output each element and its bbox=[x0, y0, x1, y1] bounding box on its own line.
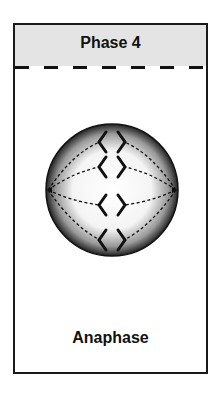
phase-card: Phase 4 bbox=[13, 23, 208, 374]
anaphase-cell-diagram bbox=[44, 122, 180, 258]
phase-header: Phase 4 bbox=[15, 25, 206, 66]
dashed-divider bbox=[15, 66, 206, 69]
phase-name-label: Anaphase bbox=[15, 329, 206, 347]
cell-membrane bbox=[46, 124, 178, 256]
phase-title: Phase 4 bbox=[15, 34, 206, 52]
